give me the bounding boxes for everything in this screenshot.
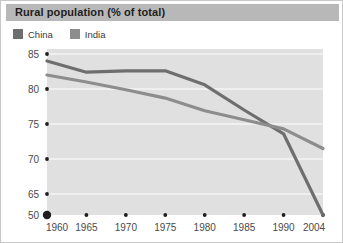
x-axis-label-1985: 1985	[233, 222, 256, 233]
y-axis-label-70: 70	[28, 154, 40, 165]
y-tick-dot-50	[43, 211, 51, 219]
x-axis-labels: 19601965197019751980198519902004	[46, 222, 326, 233]
x-axis-label-1970: 1970	[115, 222, 138, 233]
y-tick-dot-75	[45, 122, 49, 126]
y-tick-dot-65	[45, 192, 49, 196]
x-axis-label-1965: 1965	[75, 222, 98, 233]
y-axis-label-85: 85	[28, 49, 40, 60]
y-axis-label-65: 65	[28, 189, 40, 200]
y-axis-label-75: 75	[28, 119, 40, 130]
x-tick-dot-1990	[282, 213, 286, 217]
x-tick-dot-1985	[242, 213, 246, 217]
y-tick-dot-80	[45, 87, 49, 91]
chart-card: Rural population (% of total) China Indi…	[0, 0, 343, 243]
y-axis-labels: 858075706550	[28, 49, 40, 221]
x-axis-label-1990: 1990	[272, 222, 295, 233]
x-axis-label-1960: 1960	[46, 222, 69, 233]
x-axis-label-1975: 1975	[154, 222, 177, 233]
x-axis-label-2004: 2004	[303, 222, 326, 233]
x-tick-dot-1965	[85, 213, 89, 217]
y-axis-label-80: 80	[28, 84, 40, 95]
x-tick-dot-1975	[163, 213, 167, 217]
chart-plot: 858075706550 196019651970197519801985199…	[1, 1, 343, 243]
x-tick-dot-1970	[124, 213, 128, 217]
y-tick-dot-70	[45, 157, 49, 161]
y-axis-label-50: 50	[28, 210, 40, 221]
x-axis-label-1980: 1980	[194, 222, 217, 233]
x-tick-dot-1980	[203, 213, 207, 217]
y-tick-dot-85	[45, 52, 49, 56]
